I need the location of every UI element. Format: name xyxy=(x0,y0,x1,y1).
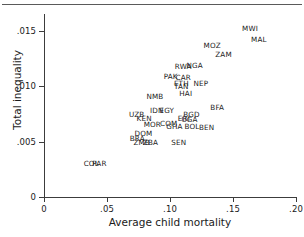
data-point-label: MWI xyxy=(242,25,258,32)
x-tick-label: .10 xyxy=(150,204,190,214)
data-point-label: MAL xyxy=(251,36,267,43)
data-point-label: MOZ xyxy=(204,43,221,50)
data-point-label: ZBA xyxy=(143,139,158,146)
x-tick-label: .15 xyxy=(213,204,253,214)
data-point-label: GHA xyxy=(166,123,182,130)
scatter-plot-figure: 0.005.010.015 0.05.10.15.20 Total inequa… xyxy=(0,0,304,237)
x-axis-title: Average child mortality xyxy=(44,216,296,228)
data-point-label: ZAM xyxy=(215,51,232,58)
plot-area: MWIMALMOZZAMNGARWAPAKCARETHTANNEPHAINMBB… xyxy=(44,14,296,197)
data-point-label: PAR xyxy=(92,161,106,168)
x-tick-label: .20 xyxy=(276,204,304,214)
data-point-label: SEN xyxy=(171,140,186,147)
y-tick-label: 0 xyxy=(30,192,36,202)
x-tick-mark xyxy=(296,197,297,202)
x-tick-label: .05 xyxy=(87,204,127,214)
x-tick-mark xyxy=(233,197,234,202)
data-point-label: BOL xyxy=(185,123,200,130)
top-divider xyxy=(2,4,302,5)
x-tick-mark xyxy=(44,197,45,202)
data-point-label: BFA xyxy=(210,104,224,111)
x-tick-label: 0 xyxy=(24,204,64,214)
data-point-label: MOR xyxy=(144,122,161,129)
data-point-label: BEN xyxy=(199,124,214,131)
data-point-label: HAI xyxy=(179,91,192,98)
x-tick-mark xyxy=(170,197,171,202)
x-tick-mark xyxy=(107,197,108,202)
data-point-label: NEP xyxy=(194,81,209,88)
y-axis-title: Total inequality xyxy=(11,10,23,170)
data-point-label: RWA xyxy=(175,64,192,71)
data-point-label: NMB xyxy=(146,93,163,100)
data-point-label: EGY xyxy=(160,107,175,114)
